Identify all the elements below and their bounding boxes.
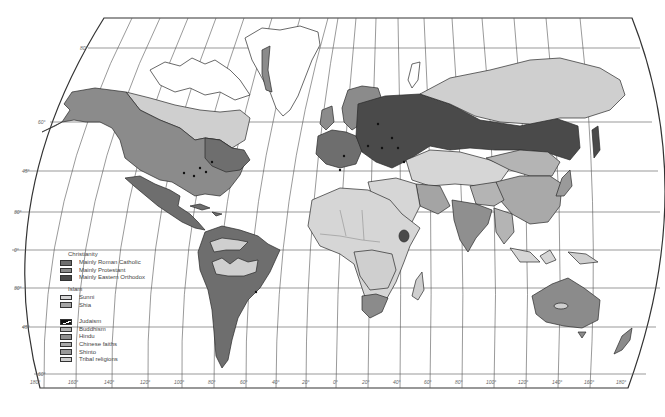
- swatch-chinese-faiths: [60, 342, 72, 348]
- svg-text:160°: 160°: [584, 379, 594, 385]
- legend-item-judaism: Judaism: [60, 318, 180, 326]
- svg-text:180°: 180°: [616, 379, 626, 385]
- svg-text:30°: 30°: [14, 285, 22, 291]
- legend-item-roman-catholic: Mainly Roman Catholic: [60, 259, 180, 267]
- swatch-judaism: [60, 319, 72, 325]
- legend-label: Shia: [79, 302, 91, 309]
- svg-text:40°: 40°: [393, 379, 401, 385]
- swatch-hindu: [60, 334, 72, 340]
- legend-item-protestant: Mainly Protestant: [60, 267, 180, 275]
- svg-text:45°: 45°: [22, 324, 30, 330]
- svg-text:180°: 180°: [30, 379, 40, 385]
- legend-item-sunni: Sunni: [60, 294, 180, 302]
- svg-text:140°: 140°: [104, 379, 114, 385]
- legend-item-chinese-faiths: Chinese faiths: [60, 341, 180, 349]
- legend-item-tribal: Tribal religions: [60, 356, 180, 364]
- svg-text:40°: 40°: [272, 379, 280, 385]
- legend-label: Mainly Eastern Orthodox: [79, 274, 145, 281]
- swatch-shia: [60, 302, 72, 308]
- svg-text:120°: 120°: [518, 379, 528, 385]
- svg-text:20°: 20°: [361, 379, 370, 385]
- svg-text:0°: 0°: [14, 247, 19, 253]
- legend-title-islam: Islam: [68, 285, 180, 293]
- svg-text:60°: 60°: [38, 119, 46, 125]
- legend-label: Mainly Roman Catholic: [79, 259, 141, 266]
- swatch-tribal: [60, 357, 72, 363]
- legend-label: Shinto: [79, 349, 96, 356]
- svg-text:60°: 60°: [424, 379, 432, 385]
- legend-label: Judaism: [79, 318, 101, 325]
- legend-item-eastern-orthodox: Mainly Eastern Orthodox: [60, 274, 180, 282]
- svg-text:80°: 80°: [80, 45, 88, 51]
- swatch-eastern-orthodox: [60, 275, 72, 281]
- svg-text:45°: 45°: [22, 168, 30, 174]
- svg-text:160°: 160°: [68, 379, 78, 385]
- svg-text:140°: 140°: [552, 379, 562, 385]
- legend-item-shia: Shia: [60, 301, 180, 309]
- legend-label: Chinese faiths: [79, 341, 117, 348]
- swatch-shinto: [60, 349, 72, 355]
- legend-title-christianity: Christianity: [68, 250, 180, 258]
- south-america: [198, 226, 280, 368]
- legend-label: Buddhism: [79, 326, 106, 333]
- svg-text:100°: 100°: [486, 379, 496, 385]
- legend-label: Tribal religions: [79, 356, 118, 363]
- swatch-roman-catholic: [60, 260, 72, 266]
- swatch-sunni: [60, 295, 72, 301]
- legend-label: Sunni: [79, 294, 94, 301]
- svg-text:60°: 60°: [240, 379, 248, 385]
- legend: Christianity Mainly Roman Catholic Mainl…: [60, 250, 180, 364]
- svg-text:80°: 80°: [208, 379, 216, 385]
- svg-text:100°: 100°: [174, 379, 184, 385]
- oceania: [510, 248, 632, 354]
- swatch-protestant: [60, 268, 72, 274]
- legend-item-buddhism: Buddhism: [60, 326, 180, 334]
- legend-item-shinto: Shinto: [60, 348, 180, 356]
- legend-label: Mainly Protestant: [79, 267, 125, 274]
- legend-label: Hindu: [79, 333, 95, 340]
- svg-text:20°: 20°: [301, 379, 310, 385]
- swatch-buddhism: [60, 327, 72, 333]
- svg-text:0°: 0°: [333, 379, 338, 385]
- svg-text:60°: 60°: [38, 371, 46, 377]
- svg-text:120°: 120°: [140, 379, 150, 385]
- north-america: [42, 26, 320, 230]
- legend-item-hindu: Hindu: [60, 333, 180, 341]
- svg-text:30°: 30°: [14, 209, 22, 215]
- longitude-labels: 180° 160° 140° 120° 100° 80° 60° 40° 20°…: [30, 379, 626, 385]
- svg-text:80°: 80°: [455, 379, 463, 385]
